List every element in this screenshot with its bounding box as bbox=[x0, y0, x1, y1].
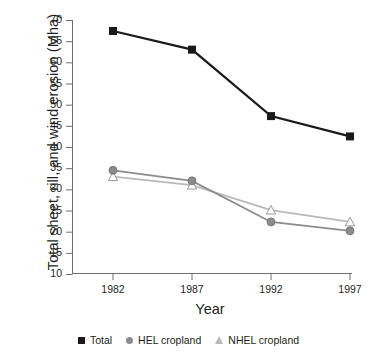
y-tick-label: 35 bbox=[36, 161, 62, 173]
series-line-nhel-cropland bbox=[113, 177, 350, 222]
data-point-marker bbox=[346, 132, 354, 140]
data-point-marker bbox=[188, 177, 196, 185]
chart-legend: TotalHEL croplandNHEL cropland bbox=[0, 334, 377, 346]
y-tick-label: 70 bbox=[36, 13, 62, 25]
data-point-marker bbox=[109, 166, 117, 174]
y-tick-label: 55 bbox=[36, 77, 62, 89]
axis-lines bbox=[72, 20, 352, 274]
square-marker-icon bbox=[78, 337, 85, 344]
data-point-marker bbox=[188, 46, 196, 54]
x-tick-label: 1982 bbox=[89, 283, 137, 295]
y-tick-label: 20 bbox=[36, 225, 62, 237]
y-tick-label: 50 bbox=[36, 98, 62, 110]
y-axis-ticks bbox=[66, 21, 73, 275]
x-axis-title: Year bbox=[60, 301, 360, 317]
series-line-hel-cropland bbox=[113, 170, 350, 231]
data-point-marker bbox=[267, 218, 275, 226]
legend-item[interactable]: NHEL cropland bbox=[215, 334, 299, 346]
y-tick-label: 65 bbox=[36, 34, 62, 46]
legend-item-label: HEL cropland bbox=[138, 334, 201, 346]
legend-item[interactable]: HEL cropland bbox=[126, 334, 201, 346]
data-series-layer bbox=[108, 27, 354, 235]
triangle-marker-icon bbox=[215, 336, 223, 344]
legend-item[interactable]: Total bbox=[78, 334, 112, 346]
series-line-total bbox=[113, 31, 350, 136]
data-point-marker bbox=[267, 112, 275, 120]
x-tick-label: 1987 bbox=[168, 283, 216, 295]
y-tick-label: 10 bbox=[36, 267, 62, 279]
y-tick-label: 60 bbox=[36, 55, 62, 67]
y-tick-label: 45 bbox=[36, 119, 62, 131]
data-point-marker bbox=[109, 27, 117, 35]
legend-item-label: Total bbox=[90, 334, 112, 346]
y-tick-label: 15 bbox=[36, 246, 62, 258]
y-tick-label: 25 bbox=[36, 204, 62, 216]
data-point-marker bbox=[346, 227, 354, 235]
circle-marker-icon bbox=[126, 337, 133, 344]
legend-item-label: NHEL cropland bbox=[228, 334, 299, 346]
y-tick-label: 30 bbox=[36, 182, 62, 194]
x-tick-label: 1992 bbox=[247, 283, 295, 295]
x-axis-ticks bbox=[113, 274, 350, 281]
x-tick-label: 1997 bbox=[326, 283, 374, 295]
erosion-line-chart: Total sheet, rill, and wind erosion (Mha… bbox=[0, 0, 377, 361]
y-tick-label: 40 bbox=[36, 140, 62, 152]
